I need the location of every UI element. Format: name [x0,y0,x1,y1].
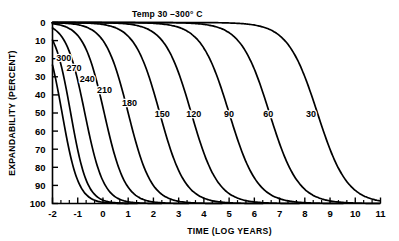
x-tick-label: 10 [350,208,361,219]
y-tick-label: 20 [35,53,46,64]
temperature-curve-270 [53,40,138,203]
y-tick-label: 80 [35,162,46,173]
x-tick-label: 7 [277,208,282,219]
x-tick-label: 5 [226,208,232,219]
y-axis-title: EXPANDABILITY (PERCENT) [7,50,17,176]
x-tick-label: 0 [100,208,105,219]
chart-title: Temp 30 –300° C [132,9,203,19]
curve-label-210: 210 [97,85,112,95]
curve-label-60: 60 [263,109,273,119]
y-tick-label: 10 [35,35,46,46]
chart-svg: 0102030405060708090100-2-101234567891011… [0,0,399,241]
y-tick-label: 60 [35,126,46,137]
curve-label-240: 240 [80,74,95,84]
curve-label-300: 300 [56,53,71,63]
y-tick-label: 0 [40,17,45,28]
x-tick-label: 9 [327,208,332,219]
y-tick-label: 50 [35,107,46,118]
y-tick-label: 70 [35,144,46,155]
x-axis-title: TIME (LOG YEARS) [187,226,272,236]
curve-label-120: 120 [186,109,201,119]
temperature-curve-30 [53,23,380,201]
y-tick-label: 90 [35,180,46,191]
x-tick-label: -2 [48,208,56,219]
temperature-curve-300 [53,65,129,203]
x-tick-label: 11 [375,208,386,219]
curve-label-180: 180 [122,98,137,108]
x-tick-label: 6 [252,208,257,219]
y-tick-label: 40 [35,89,46,100]
x-tick-label: 8 [302,208,307,219]
curve-label-270: 270 [66,63,81,73]
curve-label-150: 150 [155,109,170,119]
y-tick-label: 100 [30,198,46,209]
x-tick-label: 4 [201,208,207,219]
curve-label-90: 90 [224,109,234,119]
x-tick-label: 3 [176,208,181,219]
x-tick-label: 1 [126,208,132,219]
curve-label-30: 30 [306,109,316,119]
x-tick-label: 2 [151,208,156,219]
x-tick-label: -1 [74,208,83,219]
y-tick-label: 30 [35,71,46,82]
expandability-vs-time-figure: 0102030405060708090100-2-101234567891011… [0,0,399,241]
